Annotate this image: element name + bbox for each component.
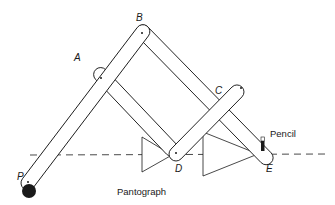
pencil-icon bbox=[261, 137, 265, 151]
label-a: A bbox=[73, 52, 81, 63]
label-e: E bbox=[266, 163, 273, 174]
label-c: C bbox=[215, 85, 223, 96]
label-b: B bbox=[136, 12, 143, 23]
label-pencil: Pencil bbox=[270, 128, 296, 139]
caption: Pantograph bbox=[117, 186, 166, 197]
fixed-pivot-ball bbox=[22, 184, 36, 198]
pivot-d bbox=[175, 152, 177, 154]
pivot-b bbox=[141, 32, 143, 34]
pantograph-diagram: P A B C D E Pencil Pantograph bbox=[0, 0, 335, 205]
label-p: P bbox=[17, 171, 24, 182]
pivot-c-end bbox=[240, 87, 242, 89]
pivot-a bbox=[100, 77, 102, 79]
label-d: D bbox=[175, 163, 182, 174]
pivot-p bbox=[27, 181, 29, 183]
